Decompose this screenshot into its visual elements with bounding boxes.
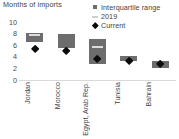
marker-2019 <box>29 34 40 36</box>
x-tick-label-jordan: Jordan <box>24 82 32 104</box>
x-tick-label-bahrain: Bahrain <box>145 82 153 106</box>
months-of-imports-chart: Months of imports Interquartile range 20… <box>0 0 179 139</box>
y-tick-label: 2 <box>0 65 17 72</box>
y-axis: 10 8 6 4 2 0 <box>0 0 17 139</box>
x-tick-label-tunisia: Tunisia <box>114 82 122 105</box>
x-axis-baseline <box>19 80 176 81</box>
legend-label: Interquartile range <box>101 3 160 12</box>
x-tick-label-morocco: Morocco <box>54 82 62 109</box>
plot-area <box>19 21 176 80</box>
line-swatch-icon <box>92 16 98 17</box>
legend-label: 2019 <box>101 12 117 21</box>
marker-current <box>30 44 39 53</box>
y-tick-label: 6 <box>0 42 17 49</box>
x-axis-labels: Jordan Morocco Egypt, Arab Rep. Tunisia … <box>19 82 176 139</box>
marker-current <box>62 47 71 56</box>
y-tick-label: 8 <box>0 30 17 37</box>
square-swatch-icon <box>93 5 97 9</box>
y-tick-label: 10 <box>0 19 17 26</box>
marker-2019 <box>92 46 103 48</box>
y-tick-label: 4 <box>0 53 17 60</box>
x-tick-label-egypt: Egypt, Arab Rep. <box>82 82 98 136</box>
y-tick-label: 0 <box>0 77 17 84</box>
